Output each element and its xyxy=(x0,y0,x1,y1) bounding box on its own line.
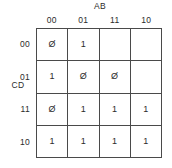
column-header-11: 11 xyxy=(99,14,131,27)
row-header-00: 00 xyxy=(4,28,33,61)
kmap-cell-r0c1[interactable]: 1 xyxy=(68,29,99,60)
kmap-row: 1 1 1 1 xyxy=(37,126,161,157)
kmap-cell-r2c3[interactable]: 1 xyxy=(131,94,161,125)
kmap-grid: Ø 1 1 Ø Ø Ø 1 1 1 1 1 1 1 xyxy=(36,28,162,158)
kmap-cell-r0c0[interactable]: Ø xyxy=(37,29,68,60)
kmap-cell-r2c2[interactable]: 1 xyxy=(100,94,131,125)
column-header-01: 01 xyxy=(68,14,100,27)
column-header-10: 10 xyxy=(131,14,163,27)
kmap-cell-r1c1[interactable]: Ø xyxy=(68,61,99,92)
kmap-cell-r1c2[interactable]: Ø xyxy=(100,61,131,92)
kmap-cell-r0c2[interactable] xyxy=(100,29,131,60)
kmap-cell-r3c1[interactable]: 1 xyxy=(68,126,99,157)
karnaugh-map-diagram: AB 00 01 11 10 CD 00 01 11 10 Ø 1 1 Ø Ø … xyxy=(0,0,172,168)
row-header-column: 00 01 11 10 xyxy=(4,28,33,158)
kmap-cell-r1c0[interactable]: 1 xyxy=(37,61,68,92)
kmap-row: 1 Ø Ø xyxy=(37,61,161,93)
kmap-cell-r3c2[interactable]: 1 xyxy=(100,126,131,157)
kmap-row: Ø 1 xyxy=(37,29,161,61)
kmap-cell-r1c3[interactable] xyxy=(131,61,161,92)
kmap-cell-r0c3[interactable] xyxy=(131,29,161,60)
column-header-00: 00 xyxy=(36,14,68,27)
row-header-11: 11 xyxy=(4,93,33,126)
column-header-row: 00 01 11 10 xyxy=(36,14,162,27)
top-variable-group-label: AB xyxy=(80,1,120,11)
kmap-cell-r3c0[interactable]: 1 xyxy=(37,126,68,157)
kmap-cell-r2c1[interactable]: 1 xyxy=(68,94,99,125)
row-header-10: 10 xyxy=(4,126,33,159)
kmap-row: Ø 1 1 1 xyxy=(37,94,161,126)
kmap-cell-r2c0[interactable]: Ø xyxy=(37,94,68,125)
kmap-cell-r3c3[interactable]: 1 xyxy=(131,126,161,157)
row-header-01: 01 xyxy=(4,61,33,94)
